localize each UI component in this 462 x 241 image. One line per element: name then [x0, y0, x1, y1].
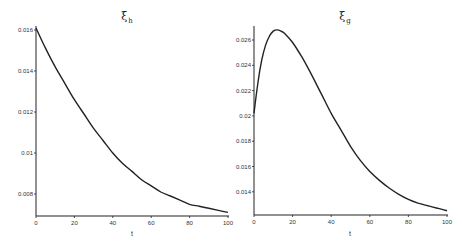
- y-tick-label: 0.02: [239, 113, 251, 119]
- y-tick-label: 0.012: [18, 109, 34, 115]
- series-line-xi-h: [36, 28, 228, 212]
- y-tick-label: 0.016: [236, 164, 252, 170]
- y-ticks: 0.0140.0160.0180.020.0220.0240.026: [236, 37, 254, 195]
- y-tick-label: 0.008: [18, 191, 34, 197]
- y-tick-label: 0.016: [18, 27, 34, 33]
- x-tick-label: 80: [405, 219, 412, 225]
- chart-figure: ξh 0.0080.010.0120.0140.016 020406080100…: [0, 0, 462, 241]
- x-tick-label: 20: [289, 219, 296, 225]
- y-tick-label: 0.022: [236, 88, 252, 94]
- y-ticks: 0.0080.010.0120.0140.016: [18, 27, 36, 197]
- x-ticks: 020406080100: [252, 215, 452, 225]
- x-axis-label: t: [131, 230, 133, 237]
- x-tick-label: 20: [71, 220, 78, 226]
- chart-xi-h: ξh 0.0080.010.0120.0140.016 020406080100…: [18, 10, 234, 237]
- x-tick-label: 60: [366, 219, 373, 225]
- x-tick-label: 0: [34, 220, 38, 226]
- chart-title-xi-g: ξg: [339, 10, 351, 25]
- x-tick-label: 40: [328, 219, 335, 225]
- x-tick-label: 100: [442, 219, 453, 225]
- x-ticks: 020406080100: [34, 216, 233, 226]
- x-tick-label: 80: [186, 220, 193, 226]
- y-tick-label: 0.01: [21, 150, 33, 156]
- x-tick-label: 0: [252, 219, 256, 225]
- y-tick-label: 0.024: [236, 62, 252, 68]
- chart-xi-g: ξg 0.0140.0160.0180.020.0220.0240.026 02…: [236, 10, 453, 237]
- series-line-xi-g: [254, 30, 447, 211]
- chart-title-xi-h: ξh: [121, 10, 133, 25]
- x-tick-label: 100: [223, 220, 234, 226]
- x-tick-label: 40: [109, 220, 116, 226]
- x-tick-label: 60: [148, 220, 155, 226]
- y-tick-label: 0.018: [236, 138, 252, 144]
- y-tick-label: 0.014: [18, 68, 34, 74]
- x-axis-label: t: [349, 230, 351, 237]
- y-tick-label: 0.026: [236, 37, 252, 43]
- y-tick-label: 0.014: [236, 189, 252, 195]
